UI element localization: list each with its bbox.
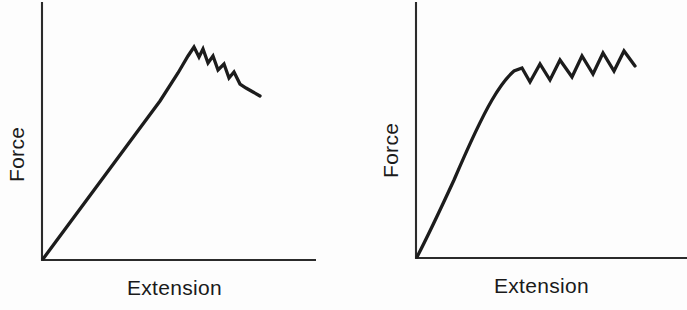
y-axis-label-left: Force (6, 127, 27, 182)
figure-root: Force Extension Force Extension (0, 0, 687, 310)
chart-svg-left (0, 0, 344, 310)
x-axis-label-left: Extension (127, 277, 222, 298)
force-extension-curve-left (43, 47, 260, 259)
y-axis-label-right: Force (380, 123, 401, 178)
force-extension-curve-right (417, 51, 635, 257)
chart-panel-left: Force Extension (0, 0, 344, 310)
chart-panel-right: Force Extension (344, 0, 687, 310)
x-axis-label-right: Extension (494, 275, 589, 296)
